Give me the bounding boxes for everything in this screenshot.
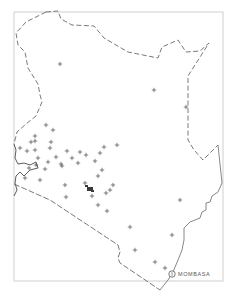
site-marker-plus-icon xyxy=(84,153,88,157)
site-marker-plus-icon xyxy=(60,164,64,168)
site-marker-plus-icon xyxy=(59,162,63,166)
site-marker-plus-icon xyxy=(54,155,58,159)
site-marker-plus-icon xyxy=(104,191,108,195)
dense-cluster-marker xyxy=(85,185,94,192)
site-marker-plus-icon xyxy=(48,146,52,150)
site-marker-plus-icon xyxy=(152,88,156,92)
site-marker-plus-icon xyxy=(76,161,80,165)
map-canvas xyxy=(0,0,244,301)
site-marker-plus-icon xyxy=(23,176,27,180)
city-label-mombasa: MOMBASA xyxy=(178,271,210,277)
site-marker-plus-icon xyxy=(33,139,37,143)
national-border xyxy=(46,11,218,160)
site-marker-plus-icon xyxy=(65,149,69,153)
site-marker-plus-icon xyxy=(36,156,40,160)
southern-border xyxy=(14,184,160,290)
site-marker-plus-icon xyxy=(33,134,37,138)
site-marker-plus-icon xyxy=(96,203,100,207)
lake-victoria-shore xyxy=(14,144,38,196)
site-marker-plus-icon xyxy=(43,167,47,171)
site-marker-plus-icon xyxy=(25,149,29,153)
site-marker-plus-icon xyxy=(44,123,48,127)
site-marker-plus-icon xyxy=(128,225,132,229)
site-markers xyxy=(18,62,188,270)
western-border xyxy=(14,12,46,144)
site-marker-plus-icon xyxy=(178,198,182,202)
site-marker-plus-icon xyxy=(46,160,50,164)
site-marker-plus-icon xyxy=(184,105,188,109)
coastline xyxy=(160,145,222,290)
site-marker-plus-icon xyxy=(18,146,22,150)
site-marker-plus-icon xyxy=(90,194,94,198)
site-marker-plus-icon xyxy=(100,168,104,172)
site-marker-plus-icon xyxy=(49,140,53,144)
site-marker-plus-icon xyxy=(102,145,106,149)
site-marker-plus-icon xyxy=(163,266,167,270)
mombasa-marker xyxy=(169,271,175,277)
site-marker-plus-icon xyxy=(93,159,97,163)
site-marker-plus-icon xyxy=(64,195,68,199)
site-marker-plus-icon xyxy=(51,128,55,132)
kenya-map: MOMBASA xyxy=(0,0,244,301)
site-marker-plus-icon xyxy=(33,148,37,152)
site-marker-plus-icon xyxy=(70,156,74,160)
site-marker-plus-icon xyxy=(133,248,137,252)
site-marker-plus-icon xyxy=(83,181,87,185)
site-marker-plus-icon xyxy=(105,209,109,213)
site-marker-plus-icon xyxy=(96,174,100,178)
site-marker-plus-icon xyxy=(108,188,112,192)
site-marker-plus-icon xyxy=(78,150,82,154)
site-marker-plus-icon xyxy=(58,62,62,66)
site-marker-plus-icon xyxy=(115,143,119,147)
site-marker-plus-icon xyxy=(153,260,157,264)
site-marker-plus-icon xyxy=(98,151,102,155)
site-marker-plus-icon xyxy=(38,178,42,182)
site-marker-plus-icon xyxy=(29,140,33,144)
site-marker-plus-icon xyxy=(111,183,115,187)
site-marker-plus-icon xyxy=(63,183,67,187)
site-marker-plus-icon xyxy=(170,233,174,237)
